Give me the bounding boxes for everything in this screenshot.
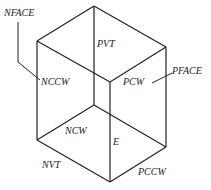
label-pface: PFACE xyxy=(172,66,202,76)
label-nvt: NVT xyxy=(42,160,60,170)
label-pvt: PVT xyxy=(97,39,115,49)
label-e: E xyxy=(113,137,119,147)
label-ncw: NCW xyxy=(65,126,87,136)
box-lines xyxy=(0,0,211,190)
box-diagram: NFACE NCCW PVT PCW PFACE NCW E NVT PCCW xyxy=(0,0,211,190)
label-pcw: PCW xyxy=(123,77,144,87)
label-nccw: NCCW xyxy=(41,77,69,87)
label-pccw: PCCW xyxy=(138,167,166,177)
label-nface: NFACE xyxy=(4,8,34,18)
